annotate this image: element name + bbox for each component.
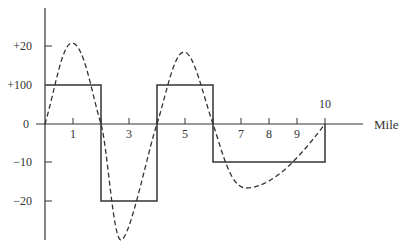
y-label-zero: 0 — [23, 117, 29, 131]
x-ticks — [73, 118, 325, 124]
x-label-8: 8 — [266, 127, 272, 141]
y-label-m10: −10 — [13, 155, 32, 169]
x-label-5: 5 — [182, 127, 188, 141]
x-axis-title: Mile — [374, 117, 399, 132]
dashed-series — [45, 43, 325, 240]
x-label-7: 7 — [238, 127, 244, 141]
chart: +20 +100 0 −10 −20 1 3 5 7 8 9 10 Mile — [0, 0, 403, 251]
x-label-10: 10 — [319, 97, 331, 111]
x-label-1: 1 — [70, 127, 76, 141]
y-label-p20: +20 — [13, 39, 32, 53]
y-label-m20: −20 — [13, 194, 32, 208]
x-label-9: 9 — [294, 127, 300, 141]
x-label-3: 3 — [126, 127, 132, 141]
y-label-p100: +100 — [7, 78, 32, 92]
step-series — [45, 85, 325, 201]
